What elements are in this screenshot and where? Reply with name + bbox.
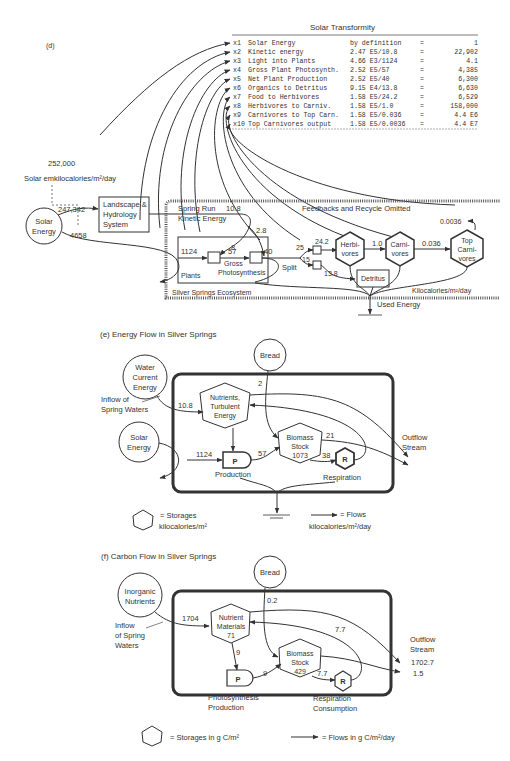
table-cell-id: x2 (233, 49, 241, 56)
landscape-hydrology-box: Landscape & Hydrology System (99, 197, 149, 232)
production-symbol[interactable]: P (227, 670, 253, 686)
spring-run-label: Spring Run (178, 204, 216, 213)
flow-to-herb: 24.2 (315, 238, 329, 245)
outflow-label-2: Stream (402, 443, 426, 452)
bread-source: Bread (254, 339, 286, 371)
svg-text:Top: Top (461, 237, 472, 245)
table-cell-eq: = (420, 85, 424, 92)
respiration-symbol[interactable]: R (336, 448, 354, 469)
table-cell-name: Food to Herbivores (248, 94, 319, 101)
svg-text:= Flows in g C/m²/day: = Flows in g C/m²/day (322, 733, 395, 742)
production-symbol[interactable]: P (223, 452, 251, 468)
table-cell-id: x1 (233, 40, 241, 47)
table-cell-id: x3 (233, 58, 241, 65)
bread-source: Bread (254, 556, 286, 588)
table-cell-id: x9 (233, 112, 241, 119)
svg-text:= Storages in g C/m²: = Storages in g C/m² (170, 733, 239, 742)
legend-storage: = Storages in g C/m² (142, 726, 239, 746)
svg-text:Biomass: Biomass (287, 650, 314, 657)
svg-text:R: R (340, 677, 346, 686)
nutrient-materials-storage: Nutrient Materials 71 (211, 604, 250, 643)
herbivores-node: Herbi- vores (336, 232, 364, 266)
svg-text:Energy: Energy (32, 227, 56, 236)
flow-bread: 2 (258, 379, 262, 388)
table-cell-value: 4.4 E6 (454, 112, 478, 119)
table-cell-calc: by definition (350, 40, 401, 47)
svg-text:P: P (235, 675, 240, 684)
panel-e-title: (e) Energy Flow in Silver Springs (100, 330, 216, 339)
flow-out2: 1.5 (413, 669, 423, 678)
table-cell-id: x8 (233, 103, 241, 110)
table-cell-name: Light into Plants (248, 58, 315, 65)
units-label: Kilocalories/m²/day (412, 287, 472, 295)
biomass-storage: Biomass Stock 429 (279, 639, 321, 677)
table-cell-id: x4 (233, 67, 241, 74)
flow-inflow: 1704 (182, 614, 199, 623)
flow-to-landscape: 247,342 (58, 205, 85, 214)
table-cell-value: 158,000 (450, 103, 478, 110)
production-label-2: Production (208, 703, 244, 712)
table-cell-name: Gross Plant Photosynth. (248, 67, 339, 74)
svg-text:Energy: Energy (127, 443, 151, 452)
svg-text:vores: vores (458, 255, 476, 262)
table-cell-value: 6,630 (458, 85, 478, 92)
respiration-symbol[interactable]: R (335, 671, 351, 691)
svg-text:vores: vores (341, 250, 359, 257)
table-cell-id: x7 (233, 94, 241, 101)
interaction-1 (208, 252, 220, 263)
svg-text:Nutrients,: Nutrients, (210, 394, 240, 401)
inflow-label-2: of Spring (115, 631, 145, 640)
top-carnivores-node: Top Carni- vores (451, 230, 483, 267)
respiration-label-2: Consumption (313, 704, 357, 713)
panel-e: (e) Energy Flow in Silver Springs Water … (100, 330, 428, 531)
solar-emkcal-label: Solar emkilocalories/m²/day (24, 174, 116, 183)
outflow-label-2: Stream (410, 645, 434, 654)
table-cell-calc: 1.58 E5/0.0036 (350, 121, 405, 128)
svg-text:Carni-: Carni- (390, 241, 410, 248)
panel-d: (d) Solar Transformity x1Solar Energyby … (24, 23, 500, 315)
svg-text:Landscape &: Landscape & (103, 200, 147, 209)
svg-text:= Storages: = Storages (160, 511, 197, 520)
solar-energy-source: Solar Energy (26, 208, 62, 244)
panel-d-label: (d) (46, 42, 55, 50)
interaction-2 (250, 252, 262, 263)
table-cell-value: 4.1 (466, 58, 478, 65)
table-cell-value: 4.4 E7 (454, 121, 478, 128)
svg-text:71: 71 (227, 632, 235, 639)
flow-bread: 0.2 (267, 596, 277, 605)
svg-text:Inorganic: Inorganic (125, 587, 156, 596)
table-cell-calc: 1.58 E5/0.036 (350, 112, 401, 119)
nutrients-storage: Nutrients, Turbulent Energy (200, 383, 250, 428)
kinetic-value: 10.8 (226, 204, 241, 213)
svg-text:429: 429 (294, 668, 306, 675)
table-cell-name: Top Carnivores output (248, 121, 331, 128)
legend-storage: = Storages kilocalories/m² (133, 510, 207, 531)
table-cell-calc: 1.58 E5/24.2 (350, 94, 398, 101)
flow-gross: 57 (228, 247, 236, 256)
table-cell-eq: = (420, 49, 424, 56)
table-cell-value: 6,529 (458, 94, 478, 101)
flow-recycle: 7.7 (335, 625, 345, 634)
svg-text:System: System (103, 220, 128, 229)
table-cell-eq: = (420, 67, 424, 74)
svg-text:Hydrology: Hydrology (103, 210, 137, 219)
water-current-source: Water Current Energy (123, 355, 167, 399)
carnivores-node: Carni- vores (386, 232, 414, 266)
svg-text:P: P (232, 457, 237, 466)
ecosystem-boundary (173, 591, 391, 695)
flow-top-out: 0.0036 (440, 218, 462, 225)
svg-text:vores: vores (391, 250, 409, 257)
flow-carn-top: 0.036 (422, 239, 441, 248)
svg-text:Energy: Energy (133, 383, 157, 392)
table-cell-value: 1 (474, 40, 478, 47)
svg-text:Stock: Stock (291, 443, 309, 450)
split-label: Split (282, 263, 298, 272)
table-cell-name: Organics to Detritus (248, 85, 327, 92)
table-cell-eq: = (420, 94, 424, 101)
svg-text:Water: Water (135, 363, 155, 372)
table-cell-eq: = (420, 121, 424, 128)
table-cell-calc: 4.66 E3/1124 (350, 58, 398, 65)
table-cell-calc: 9.15 E4/13.8 (350, 85, 398, 92)
plants-label: Plants (181, 272, 201, 279)
respiration-label: Respiration (323, 473, 361, 482)
